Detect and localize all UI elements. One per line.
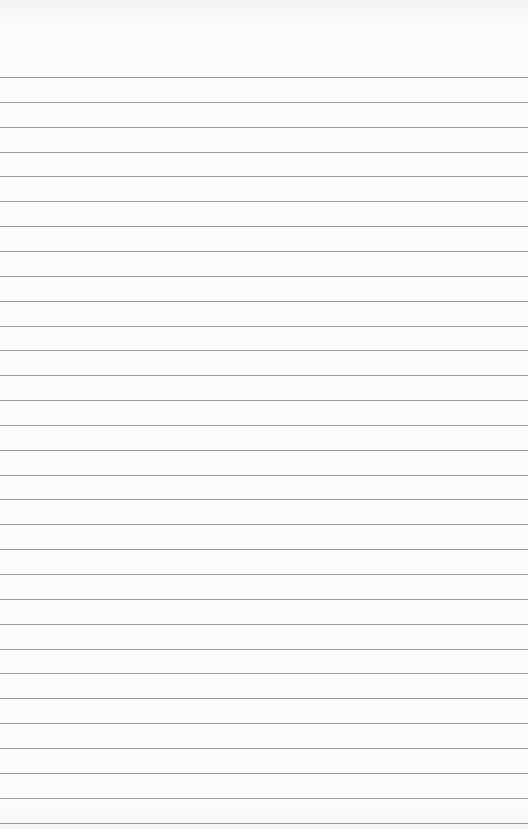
ruled-line (0, 524, 528, 525)
ruled-line (0, 450, 528, 451)
ruled-line (0, 823, 528, 824)
ruled-line (0, 748, 528, 749)
ruled-line (0, 251, 528, 252)
ruled-line (0, 649, 528, 650)
ruled-line (0, 77, 528, 78)
ruled-line (0, 127, 528, 128)
ruled-line (0, 673, 528, 674)
ruled-line (0, 375, 528, 376)
lined-paper-sheet (0, 0, 528, 829)
ruled-line (0, 226, 528, 227)
ruled-line (0, 301, 528, 302)
ruled-line (0, 276, 528, 277)
ruled-line (0, 698, 528, 699)
ruled-line (0, 499, 528, 500)
ruled-line (0, 176, 528, 177)
ruled-line (0, 102, 528, 103)
ruled-line (0, 425, 528, 426)
ruled-line (0, 574, 528, 575)
ruled-line (0, 400, 528, 401)
ruled-line (0, 152, 528, 153)
ruled-line (0, 549, 528, 550)
ruled-line (0, 773, 528, 774)
ruled-line (0, 798, 528, 799)
ruled-line (0, 201, 528, 202)
ruled-line (0, 723, 528, 724)
ruled-line (0, 475, 528, 476)
ruled-line (0, 326, 528, 327)
ruled-line (0, 624, 528, 625)
ruled-line (0, 599, 528, 600)
ruled-line (0, 350, 528, 351)
